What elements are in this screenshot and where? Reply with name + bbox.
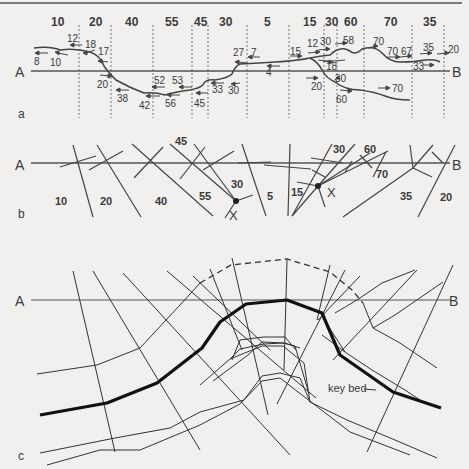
dip-value: 67 [401,46,413,57]
domain-dip: 55 [165,15,179,29]
intersection-point [233,198,239,204]
dip-label: 30 [231,178,243,190]
dip-value: 12 [307,38,319,49]
dip-value: 8 [34,56,40,67]
dip-value: 10 [50,57,62,68]
dip-label: 20 [440,191,452,203]
section-start-a: A [15,64,25,80]
intersection-point [315,183,321,189]
dip-value: 20 [311,81,323,92]
panel-b: A B b [15,135,461,223]
dip-label: 35 [400,190,412,202]
dip-label: 10 [55,195,67,207]
dip-value: 12 [67,33,79,44]
dip-value: 70 [387,46,399,57]
dip-label: 55 [199,190,211,202]
dip-value: 17 [98,46,110,57]
panel-a: A B a [15,15,461,121]
dip-value: 35 [423,42,435,53]
intersection-label: X [327,185,336,200]
dip-label: 20 [100,195,112,207]
section-end-c: B [449,293,458,309]
dip-value: 30 [320,36,332,47]
dip-value: 60 [336,94,348,105]
dip-value: 70 [392,83,404,94]
dip-value: 38 [117,93,129,104]
dip-label: 30 [333,143,345,155]
key-bed-label: key bed [328,382,367,394]
domain-dip: 70 [384,15,398,29]
dip-value: 53 [172,75,184,86]
dip-value: 18 [85,39,97,50]
dip-value: 33 [413,61,425,72]
domain-dip: 15 [303,15,317,29]
domain-dip: 35 [423,15,437,29]
panel-label-a: a [18,107,25,121]
dip-label: 60 [364,143,376,155]
dip-value: 56 [165,98,177,109]
dip-value: 45 [194,98,206,109]
dip-value: 20 [97,79,109,90]
dip-value: 20 [448,44,460,55]
dip-value: 30 [228,85,240,96]
dip-value: 70 [373,36,385,47]
domain-dip: 40 [125,15,139,29]
fold-construction-figure: A B a [0,0,469,469]
section-start-b: A [15,157,25,173]
dip-value: 7 [251,47,257,58]
dip-value: 15 [290,46,302,57]
domain-dip: 5 [264,15,271,29]
dip-value: 27 [233,47,245,58]
section-end-b: B [452,157,461,173]
dip-label: 70 [376,168,388,180]
dip-label: 15 [291,186,303,198]
domain-dip: 60 [344,15,358,29]
panel-label-c: c [18,449,24,463]
dip-value: 58 [343,35,355,46]
dip-value: 4 [266,67,272,78]
domain-dip: 20 [89,15,103,29]
panel-c: A B c [15,258,458,465]
panel-label-b: b [18,207,25,221]
dip-label: 45 [175,135,187,147]
domain-dip: 30 [219,15,233,29]
dip-value: 18 [326,61,338,72]
intersection-label: X [229,208,238,223]
dip-label: 5 [267,190,273,202]
section-end-a: B [452,64,461,80]
dip-value: 52 [154,75,166,86]
section-start-c: A [15,293,25,309]
domain-dip: 10 [51,15,65,29]
dip-label: 40 [155,195,167,207]
domain-dip: 45 [194,15,208,29]
dip-value: 42 [139,100,151,111]
dip-value: 30 [335,73,347,84]
dip-value: 33 [212,84,224,95]
domain-dip: 30 [325,15,339,29]
